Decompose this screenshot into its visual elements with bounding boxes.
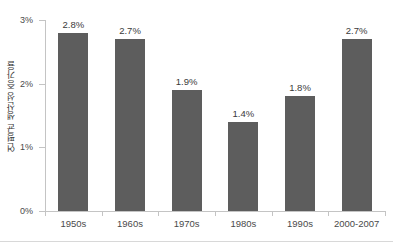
bar[interactable] <box>342 39 372 211</box>
bar-value-label: 1.9% <box>159 77 215 87</box>
y-axis-title: 연평균 생산성 증가율 <box>2 0 20 212</box>
bar-value-label: 1.4% <box>215 109 271 119</box>
y-axis-line <box>45 20 46 211</box>
bar[interactable] <box>228 122 258 211</box>
x-axis-tick <box>45 211 46 216</box>
bar-value-label: 2.7% <box>329 26 385 36</box>
x-axis-tick <box>215 211 216 216</box>
x-axis-tick <box>102 211 103 216</box>
x-axis-tick <box>272 211 273 216</box>
y-axis-tick <box>39 84 45 85</box>
x-axis-tick <box>158 211 159 216</box>
y-axis-tick <box>39 147 45 148</box>
y-axis-tick <box>39 20 45 21</box>
bar[interactable] <box>58 33 88 211</box>
x-axis-category-label: 2000-2007 <box>321 219 393 229</box>
x-axis-tick <box>385 211 386 216</box>
x-axis-tick <box>328 211 329 216</box>
y-axis-tick-label: 3% <box>3 16 33 25</box>
bar[interactable] <box>285 96 315 211</box>
plot-area: 0%1%2%3% 2.8%2.7%1.9%1.4%1.8%2.7% 1950s1… <box>45 20 385 211</box>
y-axis-tick-label: 1% <box>3 143 33 152</box>
bar[interactable] <box>172 90 202 211</box>
bar-value-label: 2.8% <box>45 20 101 30</box>
y-axis-tick-label: 2% <box>3 80 33 89</box>
bar-value-label: 2.7% <box>102 26 158 36</box>
bar-chart: 연평균 생산성 증가율 0%1%2%3% 2.8%2.7%1.9%1.4%1.8… <box>0 0 393 242</box>
y-axis-title-label: 연평균 생산성 증가율 <box>7 60 16 152</box>
y-axis-tick-label: 0% <box>3 207 33 216</box>
bar-value-label: 1.8% <box>272 83 328 93</box>
bar[interactable] <box>115 39 145 211</box>
